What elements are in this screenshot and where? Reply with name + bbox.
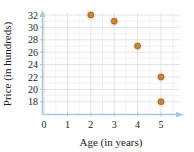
data-point: [156, 72, 166, 82]
y-tick-label: 24: [28, 59, 38, 70]
x-axis-label: Age (in years): [80, 136, 143, 149]
x-tick-label: 3: [112, 119, 117, 130]
y-tick-label: 20: [28, 84, 38, 95]
y-tick-label: 28: [28, 34, 38, 45]
y-tick-label: 26: [28, 47, 38, 58]
data-point: [156, 97, 166, 107]
x-tick-label: 0: [42, 119, 47, 130]
x-tick-label: 4: [135, 119, 140, 130]
data-point: [132, 41, 142, 51]
y-axis-label: Price (in hundreds): [1, 22, 14, 107]
x-tick-label: 2: [88, 119, 93, 130]
y-tick-label: 18: [28, 96, 38, 107]
y-tick-labels: 18 20 22 24 26 28 30 32: [28, 10, 38, 108]
x-tick-label: 5: [159, 119, 164, 130]
gridlines-horizontal-minor: [44, 21, 180, 95]
scatter-chart: 18 20 22 24 26 28 30 32 0 1 2 3 4 5: [0, 0, 194, 152]
y-axis-arrow-icon: [40, 10, 46, 17]
y-tick-label: 30: [28, 22, 38, 33]
x-tick-label: 1: [65, 119, 70, 130]
data-point: [86, 10, 96, 20]
data-point: [109, 16, 119, 26]
x-axis-arrow-icon: [176, 112, 184, 117]
x-tick-labels: 0 1 2 3 4 5: [42, 119, 164, 130]
plot-area: 18 20 22 24 26 28 30 32 0 1 2 3 4 5: [0, 0, 194, 152]
y-tick-label: 22: [28, 72, 38, 83]
y-tick-label: 32: [28, 10, 38, 21]
